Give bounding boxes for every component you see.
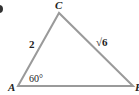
vertex-label-a: A bbox=[7, 81, 15, 93]
angle-label-a: 60° bbox=[29, 73, 43, 84]
problem-marker-icon bbox=[0, 5, 3, 13]
side-label-bc: √6 bbox=[96, 36, 108, 48]
side-label-ac: 2 bbox=[29, 38, 35, 50]
vertex-label-b: B bbox=[134, 81, 139, 93]
vertex-label-c: C bbox=[55, 0, 63, 11]
triangle-diagram: C A B 2 √6 60° bbox=[0, 0, 139, 95]
